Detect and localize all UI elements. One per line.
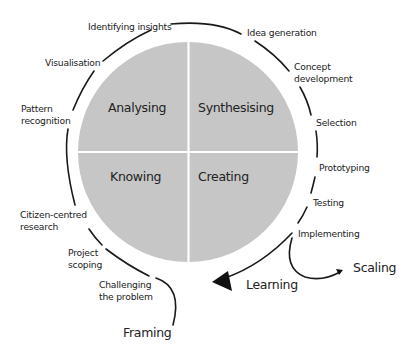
arc-top: [171, 23, 241, 34]
quadrant-synthesising: Synthesising: [198, 100, 274, 115]
arc-implementing-scaling: [289, 238, 340, 279]
label-implementing: Implementing: [298, 228, 360, 239]
label-challenging-line2: the problem: [99, 291, 153, 302]
label-pattern-line2: recognition: [21, 115, 71, 126]
label-framing: Framing: [123, 325, 172, 340]
arc-challenging-framing: [156, 278, 176, 325]
arc-prototyping-testing: [311, 177, 315, 193]
label-citizen-line1: Citizen-centred: [20, 209, 87, 220]
arc-idea-concept: [255, 41, 289, 71]
arc-pattern-citizen: [67, 129, 75, 205]
arc-testing-implementing: [298, 207, 307, 223]
innovation-cycle-diagram: Analysing Synthesising Knowing Creating: [0, 0, 409, 358]
label-testing: Testing: [312, 197, 344, 208]
label-concept-line1: Concept: [294, 61, 331, 72]
label-scaling: Scaling: [353, 260, 396, 275]
quadrant-knowing: Knowing: [110, 169, 161, 184]
label-learning: Learning: [246, 277, 298, 292]
label-identifying-insights: Identifying insights: [88, 21, 172, 32]
quadrant-creating: Creating: [198, 169, 249, 184]
label-pattern-line1: Pattern: [21, 103, 53, 114]
label-idea-generation: Idea generation: [247, 27, 317, 38]
label-citizen-line2: research: [20, 221, 59, 232]
label-project-line1: Project: [68, 247, 99, 258]
arc-concept-selection: [300, 87, 311, 115]
quadrant-circle: [76, 40, 300, 264]
arc-selection-prototyping: [316, 131, 317, 157]
label-challenging-line1: Challenging: [99, 279, 151, 290]
label-visualisation: Visualisation: [45, 57, 101, 68]
label-project-line2: scoping: [68, 259, 102, 270]
arc-project-challenging: [106, 249, 149, 276]
quadrant-analysing: Analysing: [108, 100, 166, 115]
learning-arrowhead-icon: [212, 271, 232, 291]
label-selection: Selection: [316, 117, 357, 128]
label-prototyping: Prototyping: [319, 162, 370, 173]
arc-citizen-project: [89, 229, 102, 245]
label-concept-line2: development: [294, 73, 353, 84]
